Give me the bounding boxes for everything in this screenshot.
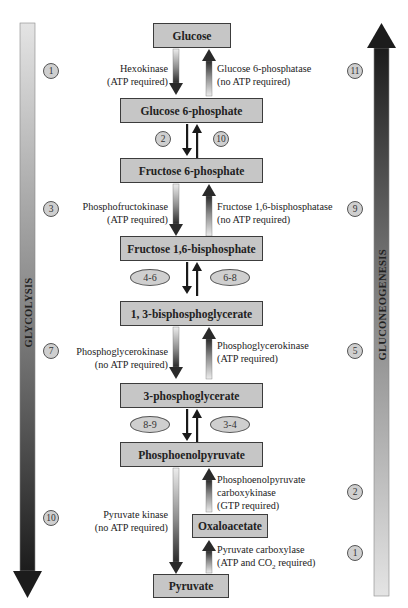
glycolysis-step-4-6: 4-6: [130, 269, 170, 286]
glycolysis-step-7: 7: [43, 343, 59, 359]
pyruvate-carboxylase-note-prefix: (ATP and CO: [217, 557, 272, 568]
pepck-arrow: [202, 468, 216, 512]
fructose-bisphosphatase-label: Fructose 1,6-bisphosphatase (no ATP requ…: [217, 200, 332, 226]
metabolite-3-phosphoglycerate: 3-phosphoglycerate: [120, 383, 263, 408]
phosphoglycerokinase-reverse-arrow: [202, 327, 216, 379]
g6p-f6p-forward-arrow: [182, 124, 192, 156]
glycolysis-label: GLYCOLYSIS: [23, 276, 34, 350]
pyruvate-carboxylase-label: Pyruvate carboxylase (ATP and CO2 requir…: [217, 543, 315, 574]
pg3-pep-forward-arrow: [182, 409, 192, 441]
glycolysis-step-8-9: 8-9: [130, 416, 170, 433]
pyruvate-kinase-arrow: [169, 468, 183, 574]
phosphoglycerokinase-forward-name: Phosphoglycerokinase: [50, 345, 168, 358]
pyruvate-carboxylase-arrow: [202, 540, 216, 573]
glycolysis-step-1: 1: [43, 63, 59, 79]
pyruvate-kinase-label: Pyruvate kinase (no ATP required): [60, 508, 168, 534]
f16bp-bpg-forward-arrow: [182, 262, 192, 294]
phosphoglycerokinase-forward-label: Phosphoglycerokinase (no ATP required): [50, 345, 168, 371]
gluconeogenesis-step-9: 9: [347, 201, 363, 217]
glucose-6-phosphatase-note: (no ATP required): [217, 75, 311, 88]
pg3-pep-reverse-arrow: [192, 409, 202, 443]
gluconeogenesis-step-2: 2: [347, 484, 363, 500]
pyruvate-kinase-note: (no ATP required): [60, 521, 168, 534]
fructose-bisphosphatase-name: Fructose 1,6-bisphosphatase: [217, 200, 332, 213]
pyruvate-carboxylase-note: (ATP and CO2 required): [217, 556, 315, 574]
phosphoglycerokinase-reverse-name: Phosphoglycerokinase: [217, 339, 309, 352]
f16bp-bpg-reverse-arrow: [192, 262, 202, 296]
metabolite-glucose-6-phosphate: Glucose 6-phosphate: [120, 98, 263, 123]
phosphofructokinase-name: Phosphofructokinase: [50, 200, 168, 213]
hexokinase-label: Hexokinase (ATP required): [60, 62, 168, 88]
gluconeogenesis-step-11: 11: [347, 63, 363, 79]
gluconeogenesis-label: GLUCONEOGENESIS: [377, 265, 388, 361]
pyruvate-carboxylase-name: Pyruvate carboxylase: [217, 543, 315, 556]
gluconeogenesis-step-10: 10: [213, 131, 229, 147]
phosphofructokinase-arrow: [169, 184, 183, 236]
phosphoglycerokinase-forward-note: (no ATP required): [50, 358, 168, 371]
phosphoglycerokinase-forward-arrow: [169, 327, 183, 379]
hexokinase-arrow: [169, 49, 183, 95]
glucose-6-phosphatase-name: Glucose 6-phosphatase: [217, 62, 311, 75]
pepck-line2: carboxykinase: [217, 486, 305, 499]
metabolite-oxaloacetate: Oxaloacetate: [192, 514, 268, 538]
phosphofructokinase-label: Phosphofructokinase (ATP required): [50, 200, 168, 226]
g6p-f6p-reverse-arrow: [192, 124, 202, 158]
glucose-6-phosphatase-arrow: [202, 49, 216, 96]
phosphofructokinase-note: (ATP required): [50, 213, 168, 226]
metabolite-phosphoenolpyruvate: Phosphoenolpyruvate: [120, 442, 263, 467]
glycolysis-step-3: 3: [43, 201, 59, 217]
metabolite-pyruvate: Pyruvate: [153, 574, 229, 598]
gluconeogenesis-step-1: 1: [347, 545, 363, 561]
gluconeogenesis-step-3-4: 3-4: [210, 416, 250, 433]
phosphoglycerokinase-reverse-label: Phosphoglycerokinase (ATP required): [217, 339, 309, 365]
fructose-bisphosphatase-arrow: [202, 184, 216, 236]
gluconeogenesis-step-6-8: 6-8: [210, 269, 250, 286]
hexokinase-name: Hexokinase: [60, 62, 168, 75]
fructose-bisphosphatase-note: (no ATP required): [217, 213, 332, 226]
hexokinase-note: (ATP required): [60, 75, 168, 88]
phosphoglycerokinase-reverse-note: (ATP required): [217, 352, 309, 365]
metabolite-glucose: Glucose: [153, 23, 231, 48]
pepck-note: (GTP required): [217, 499, 305, 512]
metabolite-fructose-1-6-bisphosphate: Fructose 1,6-bisphosphate: [120, 236, 263, 261]
glucose-6-phosphatase-label: Glucose 6-phosphatase (no ATP required): [217, 62, 311, 88]
glycolysis-step-10: 10: [43, 510, 59, 526]
pyruvate-kinase-name: Pyruvate kinase: [60, 508, 168, 521]
pepck-label: Phosphoenolpyruvate carboxykinase (GTP r…: [217, 473, 305, 512]
gluconeogenesis-step-5: 5: [347, 343, 363, 359]
metabolite-1-3-bisphosphoglycerate: 1, 3-bisphosphoglycerate: [120, 301, 263, 326]
glycolysis-step-2: 2: [155, 131, 171, 147]
pyruvate-carboxylase-note-suffix: required): [276, 557, 316, 568]
metabolite-fructose-6-phosphate: Fructose 6-phosphate: [120, 158, 263, 183]
pepck-line1: Phosphoenolpyruvate: [217, 473, 305, 486]
